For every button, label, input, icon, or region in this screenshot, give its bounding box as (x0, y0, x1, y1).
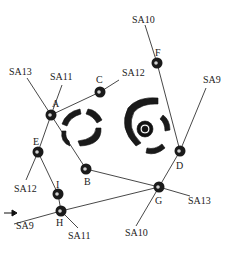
right-pulley (124, 98, 170, 154)
label-sa11-bottom: SA11 (68, 231, 90, 241)
label-e: E (33, 137, 39, 147)
label-f: F (155, 48, 161, 58)
label-sa9-right: SA9 (203, 75, 221, 85)
label-sa13-top: SA13 (9, 67, 32, 77)
label-sa13-right: SA13 (188, 196, 211, 206)
connection-lines (14, 25, 206, 228)
label-d: D (176, 161, 183, 171)
arrow-icon (4, 210, 17, 216)
label-sa10-bottom: SA10 (125, 228, 148, 238)
label-c: C (96, 75, 103, 85)
label-sa10-top: SA10 (132, 15, 155, 25)
label-b: B (84, 177, 91, 187)
label-sa11-top: SA11 (50, 72, 72, 82)
label-i: I (56, 180, 59, 190)
label-g: G (155, 196, 162, 206)
label-sa9-left: SA9 (16, 221, 34, 231)
label-a: A (52, 99, 59, 109)
label-h: H (56, 218, 63, 228)
belt-diagram (0, 0, 235, 254)
label-sa12-top: SA12 (122, 68, 145, 78)
left-pulley-segments (62, 109, 102, 146)
label-sa12-left: SA12 (14, 184, 37, 194)
